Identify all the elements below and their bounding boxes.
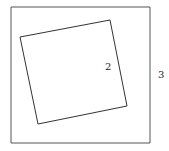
- outer-square-label: 3: [158, 69, 164, 80]
- inner-rotated-square: [20, 20, 127, 124]
- outer-square: [11, 7, 150, 143]
- nested-squares-diagram: 2 3: [0, 0, 169, 151]
- inner-square-label: 2: [105, 61, 111, 72]
